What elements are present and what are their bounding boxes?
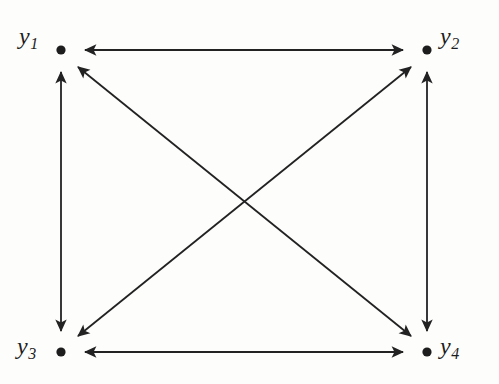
- node-label-y2-base: y: [440, 23, 451, 49]
- node-label-y3-subscript: 3: [28, 345, 36, 362]
- node-label-y1: y1: [19, 24, 38, 52]
- node-dot-y3: [56, 347, 65, 356]
- node-label-y2-subscript: 2: [451, 35, 459, 52]
- diagram-canvas: y1 y2 y3 y4: [0, 0, 499, 384]
- node-label-y2: y2: [440, 24, 459, 52]
- node-dot-y4: [422, 347, 431, 356]
- node-label-y3-base: y: [17, 333, 28, 359]
- node-label-y3: y3: [17, 334, 36, 362]
- node-label-y4-subscript: 4: [451, 345, 459, 362]
- node-label-y4-base: y: [440, 333, 451, 359]
- graph-svg: [0, 0, 499, 384]
- node-label-y4: y4: [440, 334, 459, 362]
- node-label-y1-base: y: [19, 23, 30, 49]
- edges-layer: [61, 50, 427, 352]
- node-dot-y1: [56, 45, 65, 54]
- node-label-y1-subscript: 1: [30, 35, 38, 52]
- node-dot-y2: [422, 45, 431, 54]
